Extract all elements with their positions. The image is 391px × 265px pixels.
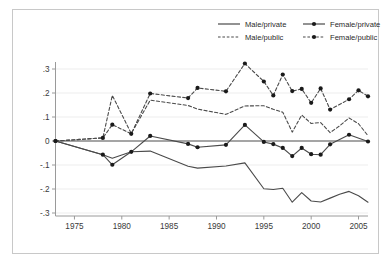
data-series-group [53,61,370,202]
data-point-marker [347,97,351,101]
data-point-marker [53,139,57,143]
data-point-marker [300,146,304,150]
data-point-marker [271,93,275,97]
x-axis-tick-labels: 1975198019851990199520002005 [65,222,368,231]
data-point-marker [300,87,304,91]
series-line-female-private [56,125,369,165]
data-point-marker [129,150,133,154]
data-point-marker [328,107,332,111]
chart-legend: Male/privateFemale/privateMale/publicFem… [218,20,380,42]
y-tick-label: -.2 [40,185,50,194]
data-point-marker [262,79,266,83]
data-point-marker [366,94,370,98]
data-point-marker [356,88,360,92]
x-tick-label: 1985 [160,222,179,231]
x-tick-label: 1975 [65,222,84,231]
x-tick-label: 1990 [207,222,226,231]
series-line-male-public [56,95,369,141]
line-chart: .3.2.10-.1-.2-.3 19751980198519901995200… [0,0,391,265]
data-point-marker [110,163,114,167]
legend-item-female-private-marker [312,22,316,26]
data-point-marker [347,133,351,137]
x-tick-label: 2000 [302,222,321,231]
y-tick-label: -.1 [40,161,50,170]
data-point-marker [281,72,285,76]
data-point-marker [319,153,323,157]
y-axis-tick-labels: .3.2.10-.1-.2-.3 [40,65,50,218]
data-point-marker [243,123,247,127]
data-point-marker [195,86,199,90]
data-point-marker [290,154,294,158]
legend-item-female-public-label: Female/public [330,33,377,42]
data-point-marker [186,142,190,146]
data-point-marker [148,134,152,138]
data-point-marker [101,136,105,140]
x-tick-label: 1980 [113,222,132,231]
data-point-marker [148,91,152,95]
data-point-marker [319,86,323,90]
data-point-marker [224,143,228,147]
legend-item-female-private-label: Female/private [330,20,380,29]
legend-item-male-public-label: Male/public [245,33,284,42]
data-point-marker [110,123,114,127]
legend-item-female-public-marker [312,35,316,39]
data-point-marker [101,153,105,157]
x-tick-label: 2005 [349,222,368,231]
chart-figure: .3.2.10-.1-.2-.3 19751980198519901995200… [0,0,391,265]
y-tick-label: .3 [43,65,50,74]
series-line-male-private [56,141,369,202]
data-point-marker [271,142,275,146]
y-tick-label: 0 [45,137,50,146]
data-point-marker [243,61,247,65]
series-line-female-public [56,63,369,141]
data-point-marker [290,89,294,93]
data-point-marker [309,152,313,156]
y-tick-label: .1 [43,113,50,122]
data-point-marker [129,132,133,136]
data-point-marker [186,96,190,100]
axes [52,62,368,220]
legend-item-male-private-label: Male/private [245,20,286,29]
data-point-marker [195,145,199,149]
x-tick-label: 1995 [255,222,274,231]
data-point-marker [309,101,313,105]
y-tick-label: .2 [43,89,50,98]
y-tick-label: -.3 [40,209,50,218]
data-point-marker [328,142,332,146]
data-point-marker [281,146,285,150]
data-point-marker [262,140,266,144]
data-point-marker [366,139,370,143]
data-point-marker [224,89,228,93]
